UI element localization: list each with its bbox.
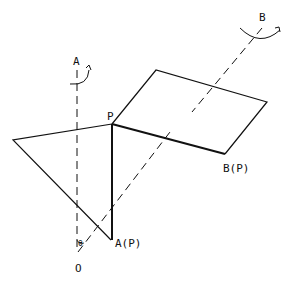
rotation-arrow-a-icon bbox=[70, 70, 89, 84]
parallelogram-plane bbox=[112, 70, 267, 154]
triangle-plane bbox=[13, 124, 112, 240]
rotation-arrow-b-icon bbox=[240, 28, 280, 39]
rotation-diagram: A B P A(P) B(P) O θ bbox=[0, 0, 290, 284]
label-point-ap: A(P) bbox=[115, 238, 142, 249]
axis-b-line bbox=[192, 28, 262, 112]
label-axis-b: B bbox=[259, 12, 266, 23]
projection-line bbox=[78, 132, 170, 252]
label-angle-theta: θ bbox=[78, 240, 83, 248]
label-point-bp: B(P) bbox=[223, 163, 250, 174]
label-point-p: P bbox=[107, 111, 114, 122]
diagram-drawing bbox=[0, 0, 290, 284]
label-axis-a: A bbox=[73, 56, 80, 67]
label-origin: O bbox=[75, 263, 82, 274]
